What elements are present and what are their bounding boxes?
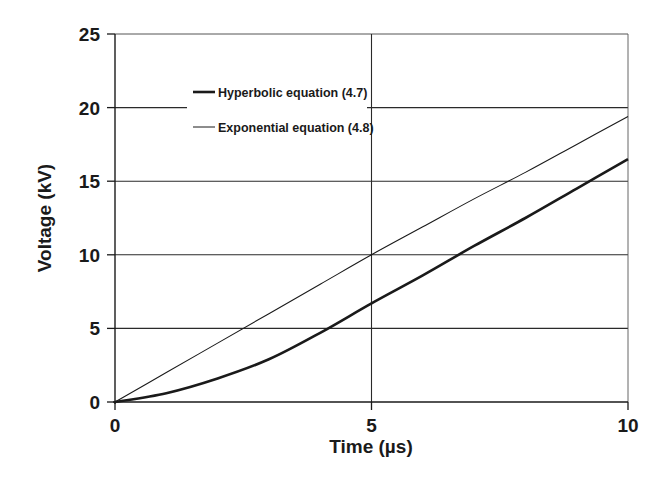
x-tick-label: 10 (617, 415, 638, 436)
y-tick-label: 15 (79, 171, 101, 192)
y-tick-label: 5 (89, 318, 100, 339)
y-axis-label: Voltage (kV) (34, 164, 55, 272)
x-axis-label: Time (µs) (329, 436, 412, 457)
voltage-time-chart: 05101520250510 Time (µs) Voltage (kV) Hy… (0, 0, 669, 481)
x-tick-label: 0 (110, 415, 121, 436)
y-tick-label: 25 (79, 24, 101, 45)
legend-label-hyperbolic: Hyperbolic equation (4.7) (218, 86, 367, 100)
y-tick-label: 10 (79, 245, 100, 266)
y-tick-label: 0 (89, 392, 100, 413)
x-tick-label: 5 (366, 415, 377, 436)
legend-label-exponential: Exponential equation (4.8) (218, 121, 374, 135)
y-tick-label: 20 (79, 98, 100, 119)
legend: Hyperbolic equation (4.7) Exponential eq… (187, 76, 374, 142)
axes (107, 34, 628, 410)
